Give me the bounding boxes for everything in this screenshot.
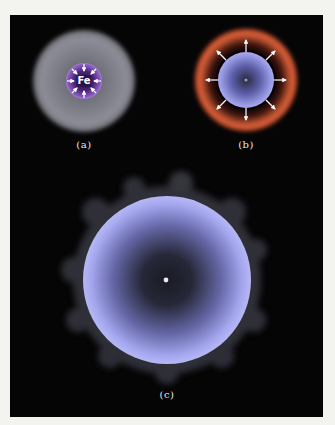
panel-a-label: (a) [76,139,91,150]
panel-c-label: (c) [160,389,175,400]
remnant-dot [164,278,169,283]
core-dot [244,78,247,81]
panel-b-label: (b) [238,139,254,150]
panel-c [61,171,267,384]
fe-core-label: Fe [76,75,91,87]
figure-canvas [0,0,335,425]
panel-b [194,28,298,132]
